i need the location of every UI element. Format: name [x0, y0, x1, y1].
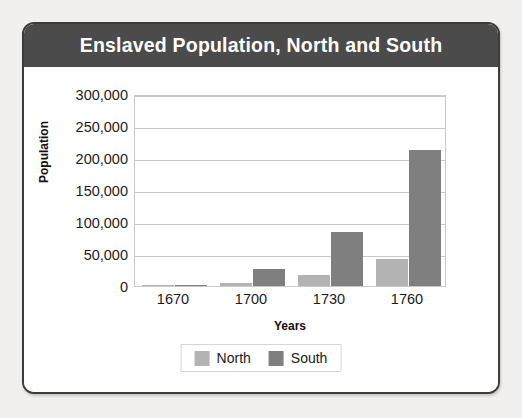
y-axis-title: Population: [37, 155, 51, 183]
chart-legend: NorthSouth: [181, 344, 342, 372]
x-axis-tick-label: 1730: [313, 291, 345, 307]
plot-area: [134, 95, 446, 287]
x-axis-tick-label: 1700: [235, 291, 267, 307]
y-axis-tick-label: 100,000: [76, 215, 128, 231]
bar-group: [298, 96, 363, 286]
bar-north-1760: [376, 259, 408, 286]
x-axis-tick-labels: 1670170017301760: [134, 291, 446, 313]
bar-south-1760: [409, 150, 441, 286]
legend-item-south: South: [269, 350, 328, 366]
bar-south-1670: [175, 285, 207, 286]
chart-body: Population 050,000100,000150,000200,0002…: [24, 67, 498, 394]
bar-group: [220, 96, 285, 286]
bar-south-1700: [253, 269, 285, 286]
chart-card: Enslaved Population, North and South Pop…: [22, 22, 500, 394]
y-axis-tick-label: 250,000: [76, 119, 128, 135]
bar-group: [142, 96, 207, 286]
y-axis-tick-label: 0: [120, 279, 128, 295]
legend-item-north: North: [195, 350, 251, 366]
y-axis-tick-label: 300,000: [76, 87, 128, 103]
legend-swatch-north: [195, 351, 210, 366]
bar-group: [376, 96, 441, 286]
bars-layer: [135, 96, 445, 286]
chart-title-bar: Enslaved Population, North and South: [24, 24, 498, 67]
x-axis-title: Years: [134, 319, 446, 333]
x-axis-tick-label: 1670: [157, 291, 189, 307]
legend-swatch-south: [269, 351, 284, 366]
bar-north-1700: [220, 283, 252, 286]
chart-title: Enslaved Population, North and South: [80, 34, 443, 57]
y-axis-tick-label: 150,000: [76, 183, 128, 199]
bar-north-1730: [298, 275, 330, 286]
legend-label: South: [291, 350, 328, 366]
y-axis-tick-labels: 050,000100,000150,000200,000250,000300,0…: [54, 95, 132, 287]
legend-label: North: [217, 350, 251, 366]
y-axis-tick-label: 50,000: [84, 247, 128, 263]
x-axis-tick-label: 1760: [391, 291, 423, 307]
bar-south-1730: [331, 232, 363, 286]
y-axis-tick-label: 200,000: [76, 151, 128, 167]
bar-north-1670: [142, 285, 174, 286]
